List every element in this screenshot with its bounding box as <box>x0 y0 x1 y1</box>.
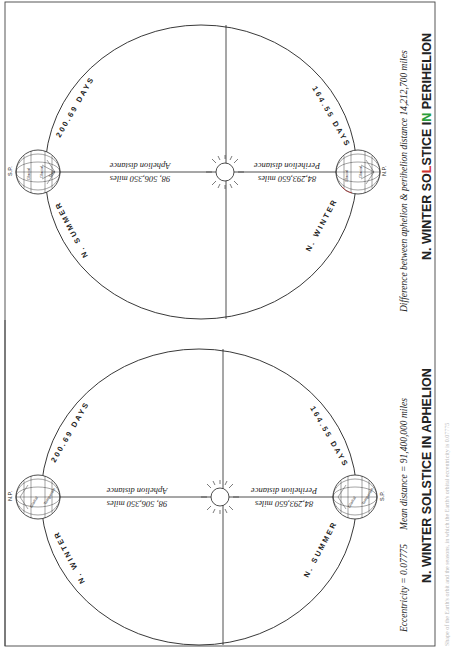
pole-label: N.P. <box>7 491 13 501</box>
season-right: N. SUMMER <box>302 519 339 579</box>
pole-label: S.P. <box>379 491 385 501</box>
sun-icon <box>201 480 239 514</box>
season-left: N. SUMMER <box>52 200 89 260</box>
perihelion-label: Perihelion distance <box>251 486 319 496</box>
orbit-diagrams-figure: Glacial Glacial Tem S.P. Glacial Glacial… <box>0 0 453 649</box>
aphelion-label: Aphelion distance <box>109 161 171 171</box>
aphelion-value: 98, 506,350 miles <box>106 499 167 509</box>
season-right: N. WINTER <box>304 197 340 253</box>
perihelion-value: 84,293,650 miles <box>257 174 316 184</box>
caption-difference: Difference between aphelion & perihelion… <box>399 50 409 313</box>
arc-days-upper: 200.69 DAYS <box>49 399 91 464</box>
globe-left-icon: Glacial Temperate N.P. <box>7 475 60 519</box>
aphelion-label: Aphelion distance <box>106 486 168 496</box>
perihelion-label: Perihelion distance <box>254 161 322 171</box>
globe-left-icon: Glacial Glacial Tem S.P. <box>7 150 60 194</box>
svg-text:Glacial: Glacial <box>39 166 44 178</box>
season-left: N. WINTER <box>51 529 87 585</box>
globe-right-icon: Glacial Temperate S.P. <box>333 475 385 519</box>
svg-text:Glacial: Glacial <box>358 166 363 178</box>
arc-days-upper: 200.69 DAYS <box>54 74 96 139</box>
edge-caption: Shape of the Earth's orbit and the seaso… <box>444 423 450 646</box>
page: Glacial Glacial Tem S.P. Glacial Glacial… <box>0 0 453 649</box>
diagram-title: N. WINTER SOLSTICE IN APHELION <box>420 368 434 583</box>
arc-days-lower: 164.55 DAYS <box>310 85 352 150</box>
caption-mean-distance: Mean distance = 91,400,000 miles <box>399 398 409 531</box>
perihelion-value: 84,293,650 miles <box>254 499 313 509</box>
aphelion-value: 98, 506,350 miles <box>109 174 170 184</box>
diagram-title: N. WINTER SOLSTICE IN PERIHELION <box>420 33 434 260</box>
pole-label: S.P. <box>7 166 13 176</box>
caption-eccentricity: Eccentricity = 0.07775 <box>399 544 409 633</box>
diagram-perihelion: Glacial Glacial Tem S.P. Glacial Glacial… <box>7 25 434 319</box>
sun-icon <box>206 155 244 189</box>
svg-text:Glacial: Glacial <box>26 168 31 180</box>
diagram-aphelion: Glacial Temperate N.P. Glacial Temperate… <box>7 349 434 645</box>
globe-right-icon: Glacial Glacial N.P. <box>336 150 387 194</box>
svg-text:Glacial: Glacial <box>344 170 349 182</box>
pole-label: N.P. <box>381 166 387 176</box>
